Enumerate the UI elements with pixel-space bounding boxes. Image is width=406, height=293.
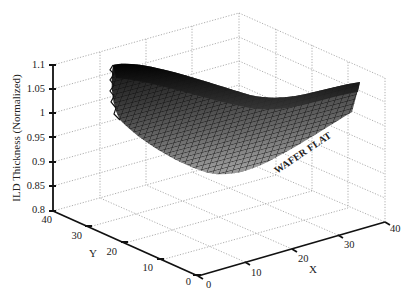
x-tick-label: 0 [206,279,211,290]
z-tick-label: 0.85 [27,180,45,191]
x-tick-label: 30 [344,239,355,250]
z-tick-label: 1 [40,107,45,118]
y-tick-label: 10 [143,262,154,273]
x-tick-label: 40 [390,223,401,234]
y-tick-label: 30 [72,230,83,241]
x-tick-label: 10 [251,267,262,278]
z-axis-label: ILD Thickness (Normalized) [10,74,23,202]
grid-floor [53,159,348,262]
x-axis-line [198,222,385,276]
y-tick-label: 40 [42,214,53,225]
surface-plot-figure: WAFER FLAT 1.1 1.05 1 0.95 0.9 0.85 0.8 … [0,0,406,293]
z-tick-label: 0.9 [32,156,45,167]
y-tick-labels: 40 30 20 10 0 [42,214,192,287]
y-tick-label: 0 [186,276,191,287]
ild-thickness-surface [110,64,360,175]
x-tick-label: 20 [298,253,309,264]
y-tick-label: 20 [107,246,118,257]
surface-plot-svg: WAFER FLAT 1.1 1.05 1 0.95 0.9 0.85 0.8 … [0,0,406,293]
y-axis-line [53,211,198,276]
x-axis-label: X [309,263,317,275]
z-tick-labels: 1.1 1.05 1 0.95 0.9 0.85 0.8 [27,59,45,215]
z-tick-label: 1.05 [27,83,45,94]
z-tick-label: 1.1 [32,59,45,70]
x-tick-labels: 0 10 20 30 40 [206,223,401,290]
y-axis-label: Y [89,247,97,259]
z-tick-label: 0.95 [27,132,45,143]
